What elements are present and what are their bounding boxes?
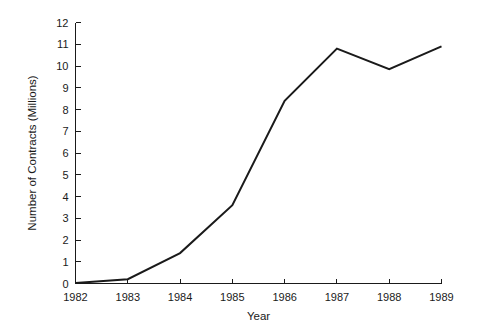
y-tick-label: 7 — [62, 125, 68, 137]
x-tick-label: 1988 — [377, 291, 401, 303]
y-tick-label: 4 — [62, 191, 68, 203]
x-tick-label: 1989 — [429, 291, 453, 303]
y-tick-label: 1 — [62, 256, 68, 268]
chart-figure: 19821983198419851986198719881989 0123456… — [0, 0, 479, 334]
y-axis-tick-labels: 0123456789101112 — [56, 17, 68, 290]
y-tick-label: 12 — [56, 17, 68, 29]
y-tick-label: 11 — [57, 38, 68, 50]
x-axis-ticks — [76, 279, 442, 284]
x-tick-label: 1984 — [168, 291, 192, 303]
x-tick-label: 1986 — [272, 291, 296, 303]
y-tick-label: 10 — [56, 60, 68, 72]
x-axis-tick-labels: 19821983198419851986198719881989 — [63, 291, 453, 303]
x-tick-label: 1985 — [220, 291, 244, 303]
y-axis-ticks — [76, 23, 81, 284]
y-tick-label: 3 — [62, 212, 68, 224]
y-tick-label: 6 — [62, 147, 68, 159]
y-axis-title: Number of Contracts (Millions) — [26, 75, 38, 230]
x-tick-label: 1987 — [325, 291, 349, 303]
x-tick-label: 1983 — [116, 291, 140, 303]
y-tick-label: 2 — [62, 234, 68, 246]
x-tick-label: 1982 — [63, 291, 87, 303]
line-chart: 19821983198419851986198719881989 0123456… — [0, 0, 479, 334]
data-series-line — [76, 46, 442, 283]
y-tick-label: 9 — [62, 82, 68, 94]
y-tick-label: 8 — [62, 104, 68, 116]
y-tick-label: 0 — [62, 278, 68, 290]
x-axis-title: Year — [247, 310, 270, 322]
y-tick-label: 5 — [62, 169, 68, 181]
